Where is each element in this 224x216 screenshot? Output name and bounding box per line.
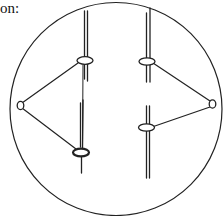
right-spindle-fiber-lower bbox=[152, 107, 210, 127]
left-upper-centromere bbox=[77, 57, 93, 65]
right-spindle-fiber-upper bbox=[153, 63, 210, 101]
right-lower-chromatid bbox=[139, 106, 155, 178]
right-spindle-pole bbox=[209, 100, 216, 108]
right-upper-chromatid bbox=[139, 8, 155, 82]
left-spindle-pole bbox=[17, 101, 24, 109]
left-spindle-fiber-upper bbox=[22, 63, 78, 103]
left-lower-centromere bbox=[73, 149, 89, 157]
right-lower-centromere bbox=[139, 124, 155, 131]
left-lower-chromatid bbox=[73, 100, 89, 173]
right-upper-centromere bbox=[139, 58, 155, 65]
spindle-diagram bbox=[0, 0, 224, 216]
left-upper-chromatid bbox=[77, 11, 93, 152]
cell-membrane bbox=[10, 3, 222, 216]
left-spindle-fiber-lower bbox=[22, 108, 76, 149]
